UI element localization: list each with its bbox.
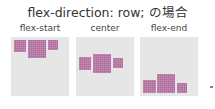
panel-center: [76, 37, 134, 96]
label-flex-end: flex-end: [140, 23, 198, 33]
panel-flex-start: [11, 37, 69, 96]
flex-item-small-2: [113, 58, 123, 68]
flex-item-large: [28, 40, 46, 58]
flex-item-large: [93, 54, 111, 73]
label-center: center: [76, 23, 134, 33]
flex-item-small-1: [143, 80, 156, 93]
flex-item-small-2: [48, 40, 58, 50]
flex-item-large: [157, 74, 175, 93]
label-flex-start: flex-start: [11, 23, 69, 33]
flex-item-small-1: [79, 57, 91, 70]
panel-flex-end: [140, 37, 198, 96]
diagram-title: flex-direction: row; の場合: [0, 2, 215, 21]
edge-mark: [210, 86, 213, 88]
flex-item-small-1: [14, 40, 26, 52]
flex-item-small-2: [177, 83, 187, 93]
